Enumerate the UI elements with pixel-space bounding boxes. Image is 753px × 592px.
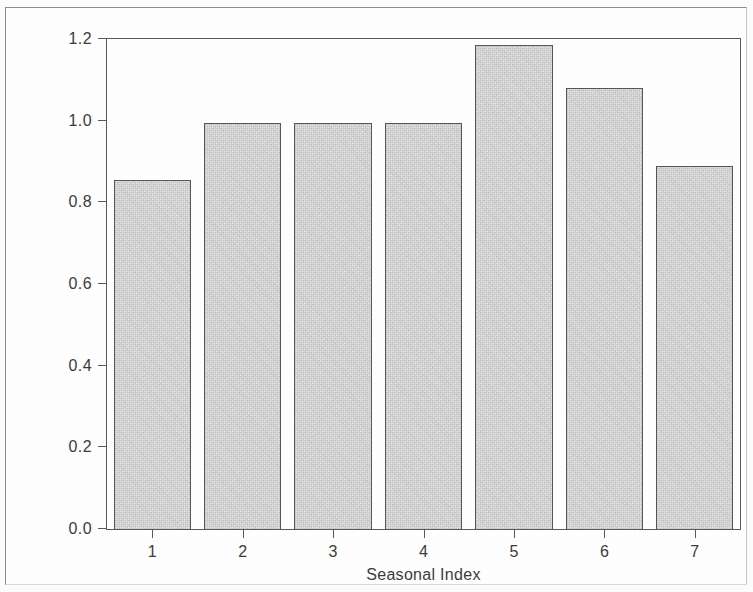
- x-axis-tick: [695, 529, 696, 538]
- y-axis-tick-label: 0.2: [69, 438, 92, 456]
- x-axis-tick: [424, 529, 425, 538]
- x-axis-tick: [514, 529, 515, 538]
- x-axis-tick: [604, 529, 605, 538]
- bar: [294, 123, 371, 529]
- x-axis-tick-label: 2: [238, 543, 247, 561]
- figure-outer-frame: Seasonal Component 0.00.20.40.60.81.01.2…: [5, 7, 747, 585]
- bar: [656, 166, 733, 529]
- x-axis-tick-label: 6: [600, 543, 609, 561]
- y-axis-tick: 0.2: [98, 446, 107, 447]
- bar: [385, 123, 462, 529]
- y-axis-tick-label: 0.6: [69, 275, 92, 293]
- x-axis-tick-label: 7: [690, 543, 699, 561]
- y-axis-tick: 0.0: [98, 528, 107, 529]
- x-axis-tick: [243, 529, 244, 538]
- y-axis-tick-label: 1.0: [69, 112, 92, 130]
- x-axis-tick-label: 4: [419, 543, 428, 561]
- y-axis-tick: 0.6: [98, 283, 107, 284]
- y-axis-tick-label: 0.8: [69, 193, 92, 211]
- x-axis-tick: [333, 529, 334, 538]
- y-axis-tick: 1.2: [98, 38, 107, 39]
- x-axis-tick: [152, 529, 153, 538]
- y-axis-tick-label: 0.4: [69, 357, 92, 375]
- x-axis-tick-label: 5: [509, 543, 518, 561]
- y-axis-title: Seasonal Component: [21, 0, 49, 66]
- bar-series: [107, 39, 740, 529]
- plot-area: 0.00.20.40.60.81.01.2 1234567: [106, 38, 741, 530]
- y-axis-tick-label: 0.0: [69, 520, 92, 538]
- y-axis-tick: 1.0: [98, 120, 107, 121]
- y-axis-tick-label: 1.2: [69, 30, 92, 48]
- bar: [475, 45, 552, 529]
- bar: [566, 88, 643, 529]
- y-axis-tick: 0.4: [98, 365, 107, 366]
- x-axis-title: Seasonal Index: [106, 566, 741, 584]
- bar: [114, 180, 191, 529]
- x-axis-tick-label: 3: [329, 543, 338, 561]
- figure-root: Seasonal Component 0.00.20.40.60.81.01.2…: [0, 0, 753, 592]
- bar: [204, 123, 281, 529]
- x-axis-tick-label: 1: [148, 543, 157, 561]
- y-axis-tick: 0.8: [98, 201, 107, 202]
